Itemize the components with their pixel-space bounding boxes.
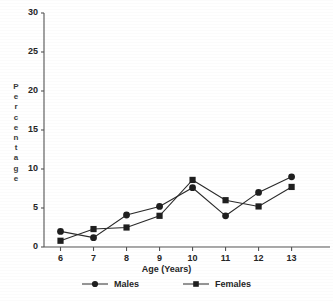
y-axis-title-letter: r — [9, 102, 23, 112]
axis-lines — [41, 13, 330, 251]
x-tick-label: 11 — [218, 253, 234, 263]
y-axis-title-letter: c — [9, 113, 23, 123]
legend-label-males: Males — [114, 279, 139, 289]
legend-item-females: Females — [183, 279, 251, 289]
chart-plot-area: Percentage Age (Years) 302520151050 6789… — [0, 0, 333, 301]
x-tick-label: 12 — [251, 253, 267, 263]
y-tick-label: 0 — [20, 241, 38, 251]
y-axis-title-letter: t — [9, 143, 23, 153]
x-tick-label: 6 — [53, 253, 69, 263]
x-tick-label: 13 — [284, 253, 300, 263]
chart-legend: Males Females — [0, 279, 333, 289]
x-tick-label: 8 — [119, 253, 135, 263]
circle-marker-icon — [82, 279, 108, 289]
y-axis-title-letter: n — [9, 133, 23, 143]
square-marker-icon — [183, 279, 209, 289]
y-tick-label: 25 — [20, 46, 38, 56]
y-tick-label: 10 — [20, 163, 38, 173]
y-tick-label: 30 — [20, 7, 38, 17]
legend-label-females: Females — [215, 279, 251, 289]
x-tick-label: 10 — [185, 253, 201, 263]
data-series-layer — [57, 173, 295, 243]
legend-item-males: Males — [82, 279, 139, 289]
x-tick-label: 7 — [86, 253, 102, 263]
x-tick-label: 9 — [152, 253, 168, 263]
y-tick-label: 20 — [20, 85, 38, 95]
y-axis-title-letter: e — [9, 174, 23, 184]
x-axis-title: Age (Years) — [0, 264, 333, 274]
y-tick-label: 15 — [20, 124, 38, 134]
y-tick-label: 5 — [20, 202, 38, 212]
